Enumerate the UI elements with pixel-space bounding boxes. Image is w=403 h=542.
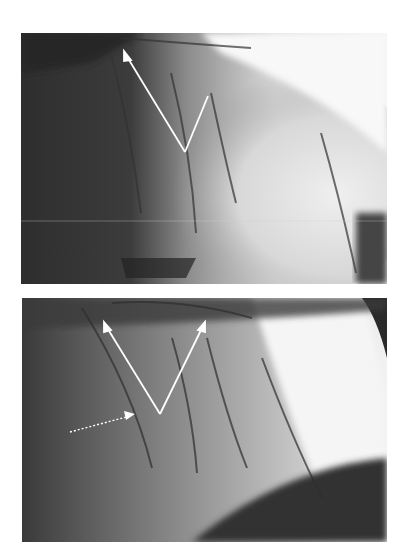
angiogram-panel-bottom [22, 298, 387, 542]
angiogram-panel-top [21, 33, 387, 284]
angiogram-image-top [21, 33, 387, 284]
angiogram-image-bottom [22, 298, 387, 542]
